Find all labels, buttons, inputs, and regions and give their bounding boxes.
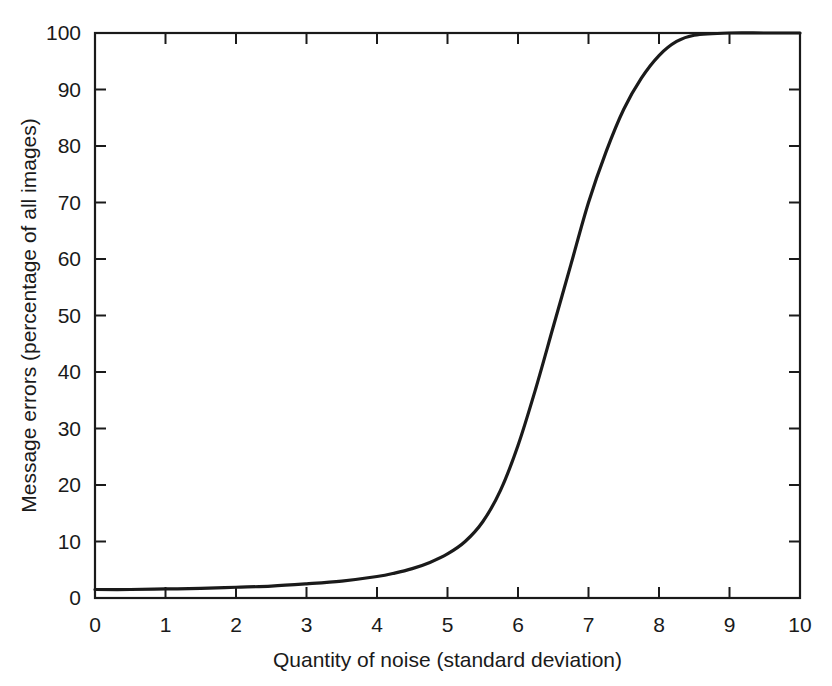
x-axis-title: Quantity of noise (standard deviation) (273, 648, 622, 671)
y-tick-label: 70 (58, 191, 81, 214)
x-tick-label: 2 (230, 613, 242, 636)
y-tick-label: 60 (58, 247, 81, 270)
x-tick-label: 6 (512, 613, 524, 636)
x-tick-label: 3 (301, 613, 313, 636)
y-tick-label: 30 (58, 417, 81, 440)
x-tick-label: 0 (89, 613, 101, 636)
x-tick-label: 9 (724, 613, 736, 636)
x-tick-label: 5 (442, 613, 454, 636)
y-tick-label: 20 (58, 473, 81, 496)
chart-figure: 012345678910 0102030405060708090100 Quan… (0, 0, 832, 686)
x-tick-label: 10 (788, 613, 811, 636)
y-tick-label: 90 (58, 78, 81, 101)
y-tick-label: 0 (69, 586, 81, 609)
line-chart: 012345678910 0102030405060708090100 Quan… (0, 0, 832, 686)
y-axis-title: Message errors (percentage of all images… (17, 118, 40, 513)
y-tick-label: 80 (58, 134, 81, 157)
x-tick-label: 1 (160, 613, 172, 636)
y-tick-label: 100 (46, 21, 81, 44)
y-tick-label: 10 (58, 530, 81, 553)
y-tick-label: 40 (58, 360, 81, 383)
x-tick-label: 7 (583, 613, 595, 636)
x-tick-label: 8 (653, 613, 665, 636)
y-tick-label: 50 (58, 304, 81, 327)
chart-background (0, 0, 832, 686)
x-tick-label: 4 (371, 613, 383, 636)
